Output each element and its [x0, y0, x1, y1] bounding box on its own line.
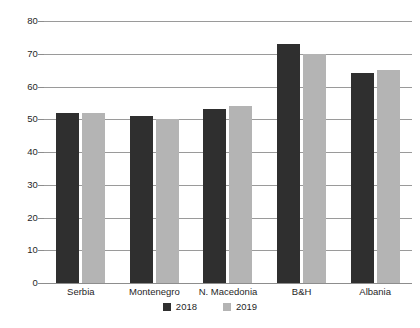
- y-tick-label-0: 0: [8, 278, 38, 288]
- bar-n-macedonia-2018: [203, 109, 226, 283]
- y-axis: 80 70 60 50 40 30 20 10: [0, 21, 38, 283]
- y-tick-0: 0: [0, 278, 38, 288]
- legend-item-2018: 2018: [163, 302, 197, 312]
- chart-legend: 2018 2019: [0, 302, 420, 312]
- legend-swatch-icon-2019: [223, 303, 231, 311]
- y-tick-label-30: 30: [8, 180, 38, 190]
- y-tick-60: 60: [0, 82, 38, 92]
- y-tick-80: 80: [0, 16, 38, 26]
- bar-bih-2018: [277, 44, 300, 283]
- bar-montenegro-2019: [156, 119, 179, 283]
- legend-label-2019: 2019: [236, 302, 257, 312]
- bar-serbia-2019: [82, 113, 105, 283]
- bar-group-serbia: [44, 21, 118, 283]
- bar-serbia-2018: [56, 113, 79, 283]
- y-tick-label-80: 80: [8, 16, 38, 26]
- bar-group-n-macedonia: [191, 21, 265, 283]
- y-tick-label-20: 20: [8, 213, 38, 223]
- bar-albania-2019: [377, 70, 400, 283]
- bar-group-bih: [265, 21, 339, 283]
- bar-montenegro-2018: [130, 116, 153, 283]
- x-axis: Serbia Montenegro N. Macedonia B&H Alban…: [44, 285, 412, 301]
- y-tick-30: 30: [0, 180, 38, 190]
- x-tick-label-n-macedonia: N. Macedonia: [191, 285, 265, 301]
- legend-label-2018: 2018: [176, 302, 197, 312]
- y-tick-label-40: 40: [8, 147, 38, 157]
- y-tick-label-60: 60: [8, 82, 38, 92]
- bar-groups: [44, 21, 412, 283]
- y-tick-10: 10: [0, 245, 38, 255]
- bar-group-albania: [338, 21, 412, 283]
- bar-n-macedonia-2019: [229, 106, 252, 283]
- y-tick-50: 50: [0, 114, 38, 124]
- y-tick-label-70: 70: [8, 49, 38, 59]
- x-tick-label-montenegro: Montenegro: [118, 285, 192, 301]
- x-tick-label-albania: Albania: [338, 285, 412, 301]
- y-tick-label-50: 50: [8, 114, 38, 124]
- y-tick-label-10: 10: [8, 245, 38, 255]
- bar-group-montenegro: [118, 21, 192, 283]
- y-tick-70: 70: [0, 49, 38, 59]
- legend-swatch-icon-2018: [163, 303, 171, 311]
- x-tick-label-serbia: Serbia: [44, 285, 118, 301]
- bar-albania-2018: [351, 73, 374, 283]
- x-tick-label-bih: B&H: [265, 285, 339, 301]
- bar-bih-2019: [303, 54, 326, 283]
- gridline-baseline-0: [44, 283, 412, 284]
- y-tick-40: 40: [0, 147, 38, 157]
- legend-item-2019: 2019: [223, 302, 257, 312]
- bar-chart: 80 70 60 50 40 30 20 10: [0, 0, 420, 328]
- y-tick-20: 20: [0, 213, 38, 223]
